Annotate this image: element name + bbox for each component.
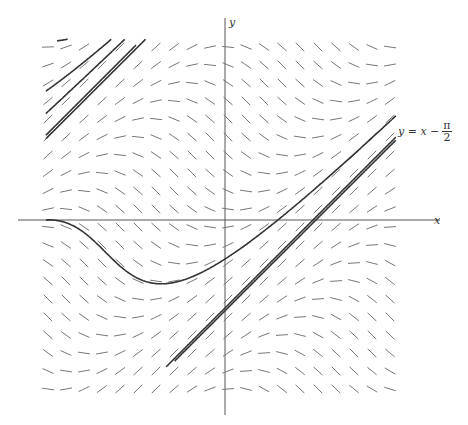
slope-segment bbox=[222, 46, 234, 47]
slope-segment bbox=[277, 43, 286, 51]
slope-segment bbox=[169, 151, 178, 159]
slope-segment bbox=[151, 314, 162, 319]
slope-segment bbox=[60, 190, 72, 193]
slope-segment bbox=[367, 278, 378, 284]
slope-segment bbox=[134, 61, 143, 69]
slope-segment bbox=[169, 296, 180, 301]
slope-segment bbox=[188, 169, 197, 177]
slope-segment bbox=[134, 241, 143, 249]
slope-segment bbox=[186, 262, 198, 264]
slope-segment bbox=[206, 133, 215, 141]
slope-segment bbox=[115, 350, 126, 355]
slope-segment bbox=[330, 281, 342, 282]
slope-segment bbox=[276, 154, 288, 156]
slope-segment bbox=[187, 116, 197, 123]
slope-segment bbox=[258, 353, 270, 354]
slope-segment bbox=[169, 385, 178, 393]
slope-segment bbox=[170, 169, 179, 177]
slope-segment bbox=[331, 62, 341, 69]
direction-field-plot bbox=[0, 0, 468, 425]
slope-segment bbox=[348, 280, 360, 283]
slope-segment bbox=[152, 187, 161, 195]
slope-segment bbox=[204, 244, 216, 246]
slope-segment bbox=[296, 241, 305, 249]
slope-segment bbox=[187, 225, 198, 230]
slope-segment bbox=[79, 333, 90, 338]
slope-segment bbox=[97, 385, 107, 392]
slope-segment bbox=[241, 224, 252, 229]
slope-segment bbox=[366, 225, 377, 229]
slope-segment bbox=[330, 118, 342, 120]
slope-segment bbox=[97, 115, 107, 122]
slope-segment bbox=[96, 172, 108, 173]
slope-segment bbox=[223, 242, 234, 247]
slope-segment bbox=[331, 242, 341, 249]
slope-segment bbox=[222, 63, 233, 68]
slope-segment bbox=[42, 208, 54, 211]
slope-segment bbox=[386, 331, 395, 339]
slope-segment bbox=[44, 313, 53, 321]
slope-segment bbox=[204, 387, 215, 391]
slope-segment bbox=[384, 244, 396, 247]
slope-segment bbox=[384, 64, 396, 66]
slope-segment bbox=[367, 115, 377, 122]
slope-segment bbox=[348, 263, 360, 264]
slope-segment bbox=[61, 259, 70, 267]
slope-segment bbox=[259, 44, 269, 51]
slope-segment bbox=[187, 278, 198, 283]
slope-segment bbox=[80, 259, 89, 267]
slope-segment bbox=[276, 315, 287, 319]
slope-segment bbox=[60, 388, 72, 390]
slope-segment bbox=[134, 223, 143, 231]
slope-segment bbox=[222, 226, 234, 228]
slope-segment bbox=[79, 241, 88, 249]
slope-segment bbox=[62, 277, 71, 285]
slope-segment bbox=[242, 133, 251, 141]
slope-segment bbox=[367, 367, 376, 375]
slope-segment bbox=[349, 313, 358, 320]
slope-segment bbox=[259, 134, 269, 141]
slope-segment bbox=[259, 314, 269, 321]
slope-segment bbox=[133, 332, 144, 337]
asymptote-label: y = x − π 2 bbox=[398, 120, 452, 143]
slope-segment bbox=[169, 313, 179, 320]
slope-segment bbox=[96, 334, 108, 336]
slope-segment bbox=[350, 187, 359, 195]
slope-segment bbox=[205, 349, 214, 357]
slope-segment bbox=[366, 262, 378, 265]
slope-segment bbox=[350, 331, 359, 339]
slope-segment bbox=[349, 133, 359, 140]
slope-segment bbox=[169, 62, 180, 67]
slope-segment bbox=[150, 298, 162, 300]
slope-segment bbox=[348, 100, 360, 102]
slope-segment bbox=[349, 116, 360, 121]
slope-segment bbox=[169, 224, 179, 231]
slope-segment bbox=[241, 79, 250, 87]
slope-segment bbox=[186, 82, 198, 83]
fraction-denominator: 2 bbox=[443, 132, 450, 143]
slope-segment bbox=[294, 154, 306, 156]
slope-segment bbox=[348, 243, 359, 247]
slope-segment bbox=[368, 349, 377, 357]
slope-segment bbox=[42, 243, 53, 248]
slope-segment bbox=[168, 100, 180, 101]
slope-segment bbox=[170, 367, 179, 375]
slope-segment bbox=[78, 370, 90, 372]
slope-segment bbox=[186, 99, 197, 104]
slope-segment bbox=[187, 206, 197, 213]
slope-segment bbox=[259, 223, 269, 230]
asymptote-line bbox=[175, 140, 396, 361]
slope-segment bbox=[60, 45, 71, 49]
slope-segment bbox=[151, 242, 161, 249]
slope-segment bbox=[44, 151, 53, 159]
slope-segment bbox=[205, 188, 215, 195]
slope-segment bbox=[240, 208, 252, 210]
slope-segment bbox=[294, 297, 305, 301]
pi-over-two-fraction: π 2 bbox=[442, 120, 451, 143]
slope-segment bbox=[314, 223, 323, 231]
slope-segment bbox=[277, 368, 288, 374]
slope-segment bbox=[80, 277, 89, 285]
slope-segment bbox=[133, 79, 143, 86]
slope-segment bbox=[79, 44, 89, 50]
slope-segment bbox=[367, 206, 377, 213]
